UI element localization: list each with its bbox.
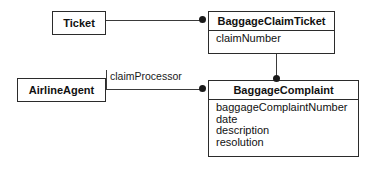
attribute-resolution: resolution: [216, 137, 358, 149]
class-name-baggage-complaint: BaggageComplaint: [209, 81, 358, 100]
attribute-description: description: [216, 125, 358, 137]
association-end-dot-baggageclaimticket: [199, 16, 206, 23]
association-line-airlineagent-baggagecomplaint: [106, 89, 205, 90]
association-line-ticket-baggageclaimticket: [106, 20, 205, 21]
association-end-dot-baggagecomplaint-top: [273, 75, 280, 82]
class-name-ticket: Ticket: [53, 12, 105, 34]
attribute-list-baggage-claim-ticket: claimNumber: [209, 31, 334, 53]
class-box-baggage-claim-ticket[interactable]: BaggageClaimTicket claimNumber: [208, 11, 335, 54]
association-riser-airlineagent: [106, 70, 107, 90]
class-box-airline-agent[interactable]: AirlineAgent: [17, 78, 106, 102]
class-box-baggage-complaint[interactable]: BaggageComplaint baggageComplaintNumber …: [208, 80, 359, 157]
uml-class-diagram-canvas: Ticket BaggageClaimTicket claimNumber Ai…: [0, 0, 371, 169]
class-name-airline-agent: AirlineAgent: [18, 79, 105, 101]
association-end-dot-baggagecomplaint-left: [199, 85, 206, 92]
attribute-claim-number: claimNumber: [216, 33, 334, 45]
attribute-baggage-complaint-number: baggageComplaintNumber: [216, 102, 358, 114]
class-name-baggage-claim-ticket: BaggageClaimTicket: [209, 12, 334, 31]
role-label-claim-processor: claimProcessor: [110, 70, 182, 82]
attribute-list-baggage-complaint: baggageComplaintNumber date description …: [209, 100, 358, 156]
class-box-ticket[interactable]: Ticket: [52, 11, 106, 35]
